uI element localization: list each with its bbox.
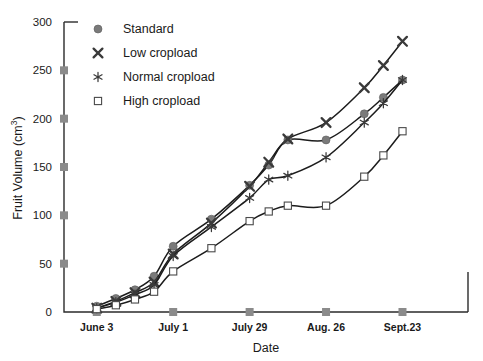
marker-open-square <box>170 268 177 275</box>
y-tick-label: 150 <box>33 161 52 173</box>
legend-item-label: Low cropload <box>123 46 197 60</box>
legend-item-normal-cropload: Normal cropload <box>94 70 215 84</box>
legend-item-label: High cropload <box>123 94 200 108</box>
marker-filled-circle <box>169 242 177 250</box>
marker-open-square <box>93 306 100 313</box>
y-tick-mark <box>60 66 68 74</box>
marker-heavy-x <box>379 61 388 70</box>
chart-canvas: 050100150200250300 June 3July 1July 29Au… <box>0 0 483 361</box>
marker-open-square <box>208 245 215 252</box>
series-normal-cropload <box>93 75 407 312</box>
marker-heavy-x <box>94 49 103 58</box>
legend-item-high-cropload: High cropload <box>94 94 200 108</box>
x-tick-mark <box>169 308 177 316</box>
marker-filled-circle <box>322 136 330 144</box>
y-tick-label: 300 <box>33 16 52 28</box>
marker-asterisk <box>265 175 273 184</box>
x-tick-label: July 1 <box>158 321 188 333</box>
marker-open-square <box>246 218 253 225</box>
legend-item-low-cropload: Low cropload <box>94 46 198 60</box>
y-tick-label: 50 <box>39 258 52 270</box>
x-tick-label: Aug. 26 <box>307 321 345 333</box>
marker-filled-circle <box>94 25 102 33</box>
legend-item-standard: Standard <box>94 22 174 36</box>
fruit-volume-line-chart: 050100150200250300 June 3July 1July 29Au… <box>0 0 483 361</box>
x-tick-label: Sept.23 <box>384 321 422 333</box>
marker-open-square <box>284 202 291 209</box>
y-tick-label: 0 <box>46 306 52 318</box>
y-tick-mark <box>60 115 68 123</box>
marker-open-square <box>380 152 387 159</box>
marker-heavy-x <box>398 37 407 46</box>
x-tick-label: July 29 <box>232 321 268 333</box>
y-tick-label: 200 <box>33 113 52 125</box>
y-axis-title: Fruit Volume (cm3) <box>9 116 25 219</box>
y-tick-mark <box>60 260 68 268</box>
marker-open-square <box>361 173 368 180</box>
x-tick-mark <box>322 308 330 316</box>
marker-open-square <box>131 296 138 303</box>
marker-open-square <box>150 288 157 295</box>
marker-open-square <box>322 202 329 209</box>
series-high-cropload <box>93 128 406 313</box>
legend-item-label: Standard <box>123 22 174 36</box>
legend: StandardLow croploadNormal croploadHigh … <box>94 22 215 108</box>
marker-asterisk <box>284 171 292 180</box>
marker-asterisk <box>94 72 102 81</box>
marker-open-square <box>94 97 101 104</box>
legend-item-label: Normal cropload <box>123 70 215 84</box>
marker-open-square <box>112 302 119 309</box>
marker-open-square <box>399 128 406 135</box>
marker-asterisk <box>322 153 330 162</box>
x-tick-mark <box>246 308 254 316</box>
marker-heavy-x <box>322 118 331 127</box>
y-tick-mark <box>60 211 68 219</box>
marker-open-square <box>265 208 272 215</box>
y-tick-mark <box>60 163 68 171</box>
marker-heavy-x <box>360 83 369 92</box>
x-axis-title: Date <box>253 341 279 355</box>
marker-filled-circle <box>360 110 368 118</box>
x-tick-mark <box>398 308 406 316</box>
y-axis-ticks: 050100150200250300 <box>33 16 68 318</box>
y-tick-label: 250 <box>33 64 52 76</box>
y-tick-label: 100 <box>33 209 52 221</box>
x-tick-label: June 3 <box>80 321 113 333</box>
